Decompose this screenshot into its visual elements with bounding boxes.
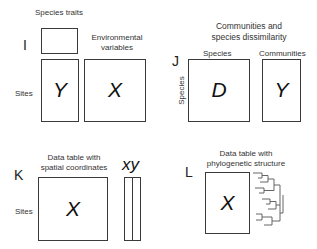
panel-j-title: Communities and species dissimilarity — [205, 21, 293, 43]
matrix-y-box-j: Y — [262, 59, 301, 122]
matrix-d-box: D — [188, 59, 250, 122]
y-coordinate-column — [132, 177, 141, 241]
matrix-y-box-i: Y — [41, 59, 79, 122]
panel-letter-l: L — [185, 165, 193, 179]
communities-column-label: Communities — [259, 49, 306, 58]
panel-k-title-line1: Data table with — [32, 153, 116, 163]
sites-label-i: Sites — [15, 89, 33, 98]
panel-k-title-line2: spatial coordinates — [32, 163, 116, 173]
matrix-y-symbol-j: Y — [263, 79, 300, 101]
panel-j-title-line1: Communities and — [205, 21, 293, 32]
matrix-x-symbol-l: X — [206, 192, 249, 214]
env-label-line2: variables — [86, 43, 148, 53]
panel-l-title-line1: Data table with — [201, 149, 291, 159]
panel-letter-j: J — [172, 54, 179, 68]
matrix-x-symbol: X — [85, 79, 145, 101]
species-row-label: Species — [177, 75, 186, 107]
panel-l-title-line2: phylogenetic structure — [201, 159, 291, 169]
panel-letter-k: K — [14, 168, 23, 182]
panel-l-title: Data table with phylogenetic structure — [201, 149, 291, 169]
species-traits-box — [41, 28, 78, 54]
species-column-label: Species — [203, 49, 231, 58]
xy-coordinates-label: xy — [122, 156, 139, 173]
species-traits-label: Species traits — [35, 8, 83, 17]
matrix-x-box-l: X — [205, 172, 250, 234]
matrix-x-box-i: X — [84, 59, 146, 122]
matrix-d-symbol: D — [189, 79, 249, 101]
panel-k-title: Data table with spatial coordinates — [32, 153, 116, 173]
sites-label-k: Sites — [15, 207, 33, 216]
panel-j-title-line2: species dissimilarity — [205, 32, 293, 43]
matrix-y-symbol: Y — [42, 79, 78, 101]
panel-letter-i: I — [23, 38, 27, 52]
environmental-variables-label: Environmental variables — [86, 33, 148, 53]
matrix-x-symbol-k: X — [39, 198, 107, 220]
phylogenetic-tree-icon — [250, 170, 290, 236]
matrix-x-box-k: X — [38, 177, 108, 241]
env-label-line1: Environmental — [86, 33, 148, 43]
